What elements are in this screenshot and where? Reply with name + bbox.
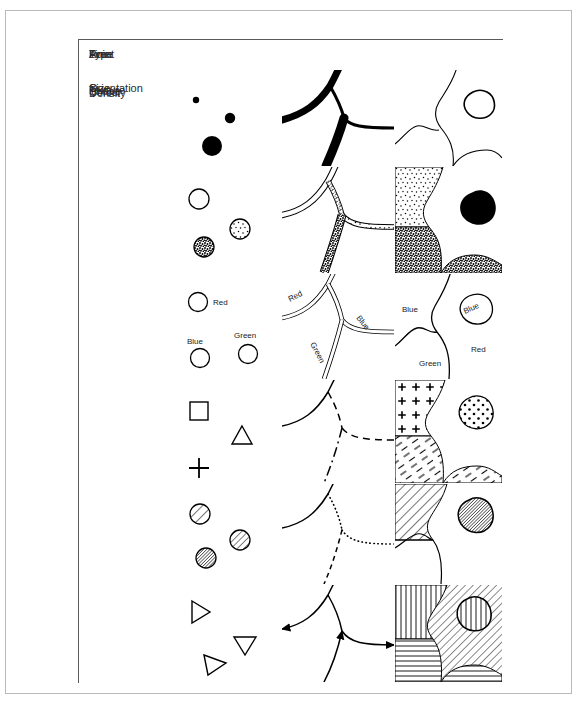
colour-area-label-blue-inset: Blue <box>462 301 481 316</box>
cell-orientation-area <box>395 585 502 682</box>
cell-orientation-line <box>282 585 394 682</box>
cell-colour-area: Blue Blue Red Green <box>395 274 502 379</box>
colour-area-label-blue: Blue <box>402 305 419 314</box>
colour-area-label-red: Red <box>471 345 486 354</box>
cell-colour-point: Red Blue Green <box>174 274 281 379</box>
cell-shape-point <box>174 380 281 483</box>
colour-point-label-red: Red <box>213 298 228 307</box>
figure-frame: Type Point Line Area Size Density Colour… <box>5 10 572 694</box>
cell-texture-line <box>282 484 394 584</box>
colour-line-label-red: Red <box>287 289 304 304</box>
cell-texture-area <box>395 484 502 584</box>
cell-size-line <box>282 70 394 166</box>
row-label-orientation: Orientation <box>78 39 173 137</box>
cell-shape-area <box>395 380 502 483</box>
cell-size-area <box>395 70 502 166</box>
cell-size-point <box>174 70 281 166</box>
colour-point-label-blue: Blue <box>187 337 204 346</box>
cell-density-point <box>174 167 281 273</box>
cell-density-area <box>395 167 502 273</box>
colour-point-label-green: Green <box>234 331 256 340</box>
cell-texture-point <box>174 484 281 584</box>
cell-colour-line: Red Blue Green <box>282 274 394 379</box>
colour-area-label-green: Green <box>419 359 441 368</box>
visual-variables-table: Type Point Line Area Size Density Colour… <box>78 39 503 683</box>
cell-orientation-point <box>174 585 281 682</box>
cell-density-line <box>282 167 394 273</box>
colour-line-label-green: Green <box>308 341 326 365</box>
cell-shape-line <box>282 380 394 483</box>
